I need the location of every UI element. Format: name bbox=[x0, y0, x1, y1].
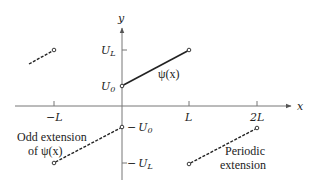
x-tick-2L: 2L bbox=[249, 101, 264, 124]
y-tick-neg-U0: −U0 bbox=[127, 121, 153, 135]
y-tick-U0: U0 bbox=[101, 80, 115, 94]
svg-text:−U0: −U0 bbox=[127, 121, 153, 135]
svg-text:Odd extension: Odd extension bbox=[17, 130, 87, 144]
svg-text:2L: 2L bbox=[249, 111, 264, 124]
svg-text:−UL: −UL bbox=[127, 157, 153, 171]
fourier-extension-diagram: x y −L L 2L UL U0 −U0 −UL ψ(x) bbox=[0, 0, 318, 188]
svg-text:U0: U0 bbox=[101, 80, 115, 94]
y-axis-label: y bbox=[117, 12, 125, 25]
svg-text:−L: −L bbox=[46, 111, 63, 124]
periodic-extension-segment: Periodic extension bbox=[187, 126, 266, 172]
svg-text:extension: extension bbox=[220, 158, 266, 172]
svg-text:of ψ(x): of ψ(x) bbox=[28, 144, 63, 158]
psi-curve: ψ(x) bbox=[120, 48, 191, 88]
odd-extension-segment: Odd extension of ψ(x) bbox=[17, 125, 124, 165]
svg-text:UL: UL bbox=[101, 44, 116, 58]
x-axis-label: x bbox=[297, 100, 304, 113]
y-tick-neg-UL: −UL bbox=[122, 157, 153, 171]
x-tick-neg-L: −L bbox=[46, 101, 63, 124]
periodic-left-segment bbox=[29, 48, 56, 64]
x-tick-L: L bbox=[184, 101, 192, 124]
svg-text:ψ(x): ψ(x) bbox=[158, 67, 180, 81]
svg-text:Periodic: Periodic bbox=[225, 144, 265, 158]
svg-text:L: L bbox=[184, 111, 192, 124]
y-tick-UL: UL bbox=[101, 44, 127, 58]
